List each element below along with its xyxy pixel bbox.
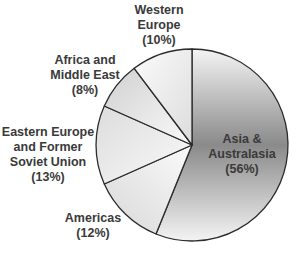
label-asia-australasia: Asia & Australasia (56%) — [202, 132, 282, 177]
label-line: Soviet Union — [0, 155, 96, 170]
label-line: Americas — [58, 211, 128, 226]
label-line: Eastern Europe — [0, 125, 96, 140]
label-pct: (13%) — [0, 170, 96, 185]
label-line: Europe — [124, 18, 194, 33]
label-americas: Americas (12%) — [58, 211, 128, 241]
label-western-europe: Western Europe (10%) — [124, 3, 194, 48]
label-africa-middle-east: Africa and Middle East (8%) — [45, 53, 125, 98]
label-line: Middle East — [45, 68, 125, 83]
label-eastern-europe: Eastern Europe and Former Soviet Union (… — [0, 125, 96, 185]
label-line: Africa and — [45, 53, 125, 68]
label-line: Asia & — [202, 132, 282, 147]
label-pct: (10%) — [124, 33, 194, 48]
label-line: and Former — [0, 140, 96, 155]
label-line: Australasia — [202, 147, 282, 162]
label-pct: (8%) — [45, 83, 125, 98]
label-pct: (12%) — [58, 226, 128, 241]
label-pct: (56%) — [202, 162, 282, 177]
label-line: Western — [124, 3, 194, 18]
